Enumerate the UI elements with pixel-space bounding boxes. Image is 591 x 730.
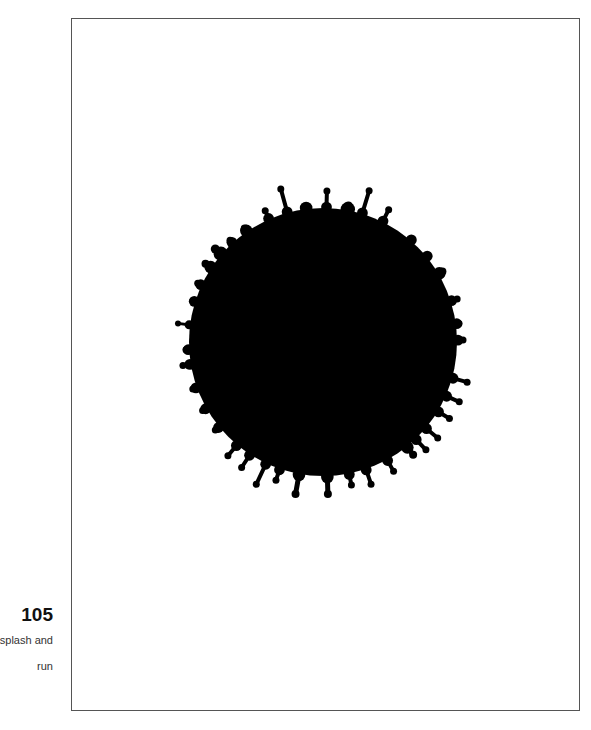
caption-line-2: run — [37, 660, 53, 672]
illustration-frame — [71, 18, 580, 711]
page-number: 105 — [21, 604, 53, 626]
caption-line-1: splash and — [0, 634, 53, 646]
